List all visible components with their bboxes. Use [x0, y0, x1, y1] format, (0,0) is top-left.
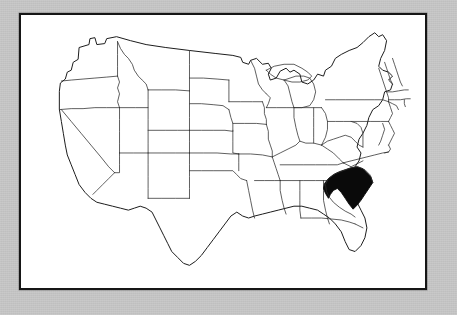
- border-nh-me: [393, 58, 403, 86]
- border-md-de-chesapeake: [379, 121, 395, 145]
- map-ink-layer: [59, 33, 410, 266]
- us-map-svg: [21, 15, 425, 288]
- border-ma-ct-ri: [389, 99, 411, 100]
- screenshot-root: [0, 0, 457, 315]
- border-ct-ri: [404, 100, 405, 107]
- usa-landmass-outline: [59, 33, 392, 266]
- map-figure-frame: [19, 13, 427, 290]
- border-pa-nj-delaware-river: [389, 102, 393, 122]
